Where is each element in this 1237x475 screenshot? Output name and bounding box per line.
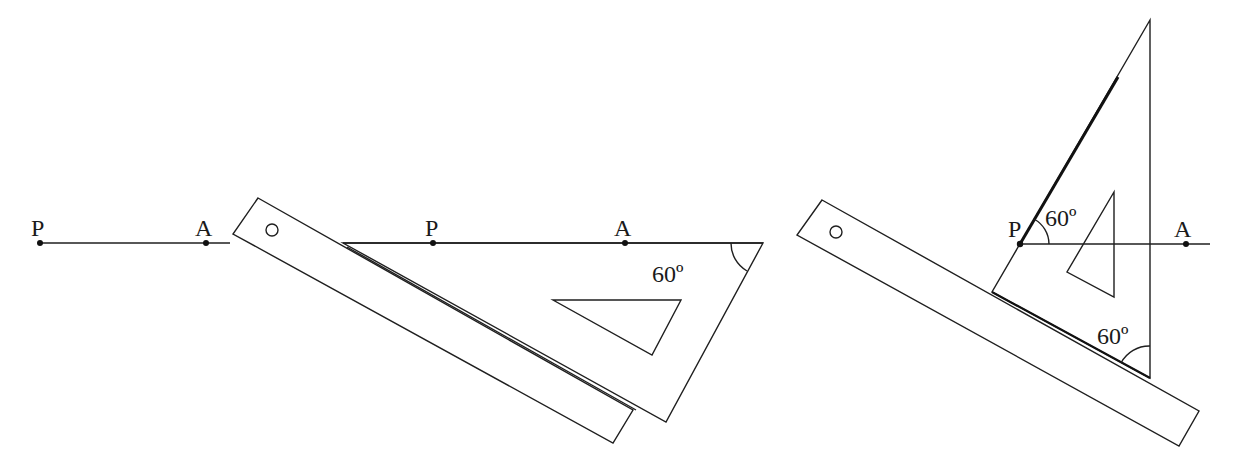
point-p-label: P (31, 215, 44, 241)
point-p-label: P (425, 215, 438, 241)
ruler (797, 200, 1199, 446)
panel-step-2: 60º P A (233, 198, 763, 443)
panel-step-1: P A (31, 215, 230, 246)
angle-label-p: 60º (1045, 205, 1077, 231)
point-a-label: A (195, 215, 213, 241)
panel-step-3: 60º 60º P A (797, 20, 1210, 446)
set-square-edge (347, 247, 636, 410)
point-a-label: A (1174, 216, 1192, 242)
set-square-cutout (553, 300, 681, 355)
point-a-label: A (614, 215, 632, 241)
angle-label: 60º (652, 261, 684, 287)
angle-label-bottom: 60º (1097, 323, 1129, 349)
point-p-label: P (1008, 216, 1021, 242)
angle-arc (731, 243, 747, 271)
ruler-hole-icon (830, 226, 842, 238)
ruler-hole-icon (266, 224, 278, 236)
construction-diagram: P A 60º P A 60º (0, 0, 1237, 475)
set-square (343, 243, 763, 422)
